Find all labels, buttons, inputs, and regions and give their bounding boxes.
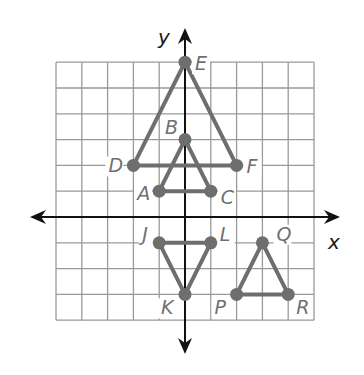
point-a: [153, 185, 166, 198]
point-label-l: L: [220, 223, 231, 245]
coordinate-plane: x y EBDFACJLKQPR: [0, 0, 364, 375]
y-axis-label: y: [157, 25, 171, 49]
point-label-d: D: [108, 154, 123, 176]
point-label-f: F: [247, 155, 259, 177]
point-label-b: B: [165, 116, 178, 138]
coordinate-plane-diagram: x y EBDFACJLKQPR: [0, 0, 364, 375]
point-label-r: R: [296, 296, 309, 318]
point-label-e: E: [195, 52, 207, 74]
point-q: [256, 236, 269, 249]
point-k: [179, 288, 192, 301]
point-p: [230, 288, 243, 301]
point-f: [230, 159, 243, 172]
point-label-k: K: [161, 296, 175, 318]
point-r: [282, 288, 295, 301]
point-label-p: P: [215, 296, 227, 318]
point-label-q: Q: [276, 223, 291, 245]
point-e: [179, 56, 192, 69]
point-b: [179, 133, 192, 146]
point-j: [153, 236, 166, 249]
point-c: [204, 185, 217, 198]
point-label-a: A: [135, 182, 150, 204]
point-label-c: C: [221, 186, 235, 208]
point-l: [204, 236, 217, 249]
point-d: [127, 159, 140, 172]
x-axis-label: x: [327, 230, 340, 254]
